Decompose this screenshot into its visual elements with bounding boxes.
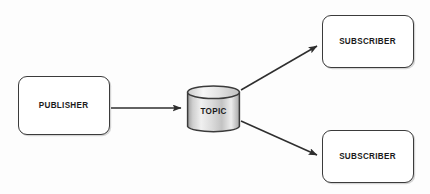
- node-subscriber-top[interactable]: SUBSCRIBER: [322, 15, 414, 68]
- node-topic-label: TOPIC: [200, 107, 226, 116]
- node-publisher-label: PUBLISHER: [39, 101, 89, 110]
- node-topic[interactable]: TOPIC: [186, 85, 241, 134]
- node-publisher[interactable]: PUBLISHER: [18, 76, 110, 135]
- edge-topic-to-subscriber-bottom: [241, 121, 317, 155]
- diagram-canvas: PUBLISHER: [0, 0, 430, 194]
- edge-topic-to-subscriber-top: [241, 46, 317, 90]
- node-subscriber-top-label: SUBSCRIBER: [340, 37, 397, 46]
- node-subscriber-bottom[interactable]: SUBSCRIBER: [322, 130, 414, 183]
- node-subscriber-bottom-label: SUBSCRIBER: [340, 152, 397, 161]
